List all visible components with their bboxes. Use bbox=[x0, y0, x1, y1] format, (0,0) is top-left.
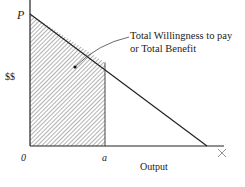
diagram-labels: P $$ 0 a Output Total Willingness to pay… bbox=[0, 0, 245, 187]
price-intercept-label: P bbox=[16, 8, 25, 22]
annotation-line-1: Total Willingness to pay bbox=[130, 30, 233, 41]
x-axis-label: Output bbox=[140, 161, 168, 172]
annotation-line-2: or Total Benefit bbox=[130, 43, 196, 54]
origin-label: 0 bbox=[21, 152, 26, 163]
quantity-label: a bbox=[102, 152, 107, 163]
y-axis-label: $$ bbox=[5, 71, 15, 82]
